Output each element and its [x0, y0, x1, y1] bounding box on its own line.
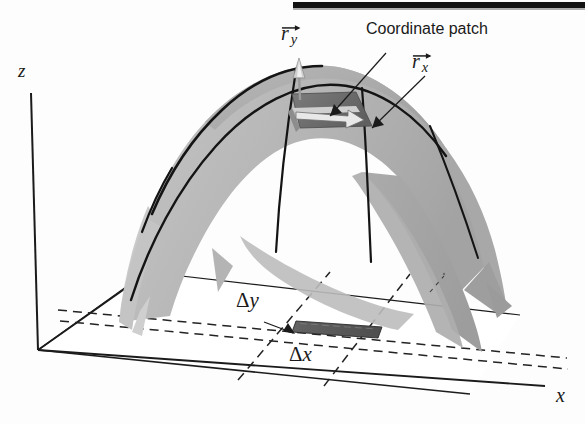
delta-y-variable: y	[250, 288, 259, 312]
r-x-subscript: x	[422, 59, 428, 75]
delta-y-symbol: Δ	[236, 288, 250, 312]
z-axis	[31, 93, 38, 350]
r-x-symbol: r	[412, 50, 420, 73]
r-y-subscript: y	[291, 31, 297, 47]
delta-x-variable: x	[303, 342, 312, 366]
r-x-label: r x	[412, 50, 428, 76]
axis-label-z: z	[18, 60, 25, 82]
delta-x-symbol: Δ	[289, 342, 303, 366]
figure-canvas: z x Coordinate patch r y r x Δy Δx	[0, 0, 585, 424]
coordinate-patch-label: Coordinate patch	[366, 20, 488, 38]
r-y-symbol: r	[281, 22, 289, 45]
axis-label-x: x	[556, 384, 565, 407]
delta-y-label: Δy	[236, 288, 259, 313]
delta-x-label: Δx	[289, 342, 312, 367]
top-rule	[293, 2, 585, 10]
r-y-label: r y	[281, 22, 297, 48]
